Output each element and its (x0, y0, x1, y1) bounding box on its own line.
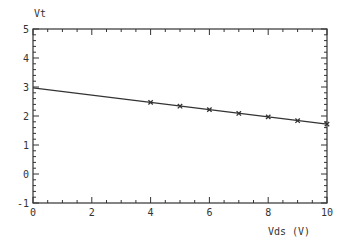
axis-ticks (33, 29, 327, 203)
x-tick-label: 2 (89, 207, 95, 218)
x-tick-label: 10 (321, 207, 333, 218)
y-tick-label: 5 (23, 24, 29, 35)
plot-frame (33, 29, 327, 203)
y-tick-label: 3 (23, 82, 29, 93)
x-tick-label: 0 (30, 207, 36, 218)
y-tick-label: -1 (17, 198, 29, 209)
y-tick-label: 1 (23, 140, 29, 151)
y-tick-label: 0 (23, 169, 29, 180)
y-axis-label: Vt (34, 8, 46, 19)
vt-vs-vds-chart: 0246810-1012345 Vt Vds (V) (0, 0, 348, 241)
plot-border (33, 29, 327, 203)
data-series (33, 88, 329, 126)
y-tick-label: 2 (23, 111, 29, 122)
tick-labels: 0246810-1012345 (17, 24, 333, 218)
y-tick-label: 4 (23, 53, 29, 64)
x-tick-label: 8 (265, 207, 271, 218)
x-tick-label: 4 (148, 207, 154, 218)
x-tick-label: 6 (206, 207, 212, 218)
x-axis-label: Vds (V) (268, 226, 310, 237)
